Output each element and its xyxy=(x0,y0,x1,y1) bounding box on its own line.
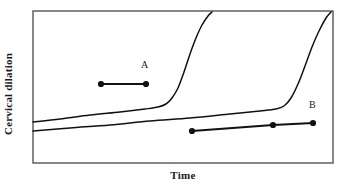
data-point xyxy=(143,81,149,87)
annotation-label-a: A xyxy=(141,60,148,70)
chart-figure: Cervical dilation Time A B xyxy=(0,0,350,188)
y-axis-label: Cervical dilation xyxy=(3,0,17,188)
annotation-label-b: B xyxy=(309,100,316,110)
data-point xyxy=(98,81,104,87)
data-point xyxy=(270,122,276,128)
data-point xyxy=(189,128,195,134)
x-axis-label: Time xyxy=(33,170,333,181)
plot-frame xyxy=(33,11,333,163)
chart-plot-area xyxy=(0,0,350,188)
data-point xyxy=(310,120,316,126)
